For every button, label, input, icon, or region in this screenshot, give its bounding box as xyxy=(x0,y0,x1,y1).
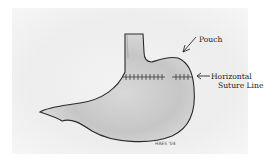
diagram-canvas: Pouch Horizontal Suture Line HAES '04 xyxy=(0,0,276,161)
pouch-label: Pouch xyxy=(199,36,222,44)
stomach-outline xyxy=(40,34,194,142)
suture-line-label-line2: Suture Line xyxy=(218,82,263,90)
artist-signature: HAES '04 xyxy=(155,140,176,148)
suture-line-label-line1: Horizontal xyxy=(211,73,252,81)
